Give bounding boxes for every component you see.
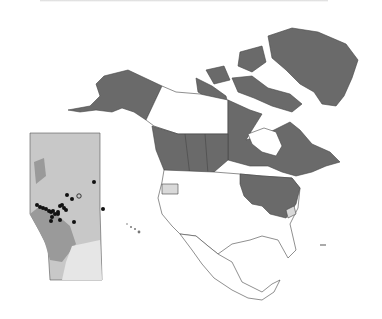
bermuda xyxy=(320,244,326,246)
eastern-canada xyxy=(228,100,340,176)
alaska xyxy=(68,70,162,120)
hawaii xyxy=(126,223,140,233)
oregon xyxy=(162,184,178,194)
alberta-inset xyxy=(30,133,105,280)
distribution-map xyxy=(0,0,382,319)
